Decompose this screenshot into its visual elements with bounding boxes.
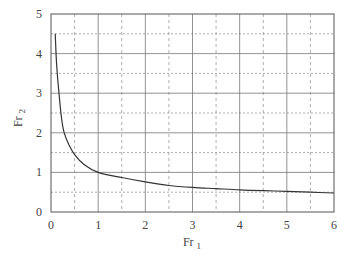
x-tick-label: 0 [48,218,54,232]
y-tick-label: 4 [36,47,42,61]
x-tick-label: 6 [331,218,337,232]
x-axis-ticks: 0123456 [48,218,337,232]
y-tick-label: 3 [36,86,42,100]
y-tick-label: 5 [36,7,42,21]
x-axis-label: Fr1 [183,235,201,251]
y-tick-label: 0 [36,205,42,219]
x-tick-label: 3 [190,218,196,232]
x-tick-label: 5 [284,218,290,232]
y-axis-ticks: 012345 [36,7,42,219]
y-axis-label: Fr2 [11,109,27,127]
x-tick-label: 4 [237,218,243,232]
x-tick-label: 2 [142,218,148,232]
line-chart: 0123456 012345 Fr1 Fr2 [0,0,350,268]
x-tick-label: 1 [95,218,101,232]
y-tick-label: 1 [36,165,42,179]
y-tick-label: 2 [36,126,42,140]
